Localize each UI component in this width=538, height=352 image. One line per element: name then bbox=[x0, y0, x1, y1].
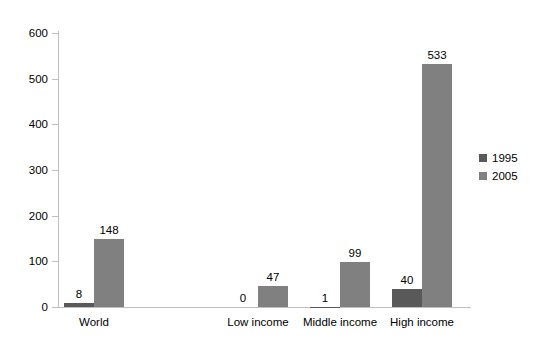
y-axis-tick-label: 200 bbox=[0, 208, 48, 224]
bar-value-label: 148 bbox=[99, 223, 118, 237]
x-axis-line bbox=[58, 307, 471, 308]
bar-2005[interactable]: 99 bbox=[340, 262, 370, 307]
y-axis-tick-label: 100 bbox=[0, 253, 48, 269]
bar-group: 199 bbox=[310, 33, 370, 307]
bar-1995[interactable]: 8 bbox=[64, 303, 94, 307]
plot-area: 814804719940533 bbox=[58, 33, 470, 307]
y-axis-tick-label: 300 bbox=[0, 162, 48, 178]
category-label: World bbox=[44, 314, 144, 330]
bar-2005[interactable]: 47 bbox=[258, 286, 288, 307]
bar-value-label: 1 bbox=[322, 291, 328, 305]
y-axis-tick-label: 500 bbox=[0, 71, 48, 87]
y-axis-tick-label: 0 bbox=[0, 299, 48, 315]
bar-group bbox=[146, 33, 206, 307]
legend-label-2005: 2005 bbox=[492, 169, 518, 183]
bar-1995[interactable]: 40 bbox=[392, 289, 422, 307]
bar-group: 40533 bbox=[392, 33, 452, 307]
bar-value-label: 8 bbox=[76, 287, 82, 301]
legend-label-1995: 1995 bbox=[492, 151, 518, 165]
legend: 1995 2005 bbox=[479, 150, 518, 186]
bar-value-label: 47 bbox=[267, 270, 280, 284]
y-axis-tick-label: 400 bbox=[0, 116, 48, 132]
bar-chart: 0100200300400500600 814804719940533 Worl… bbox=[0, 0, 538, 352]
legend-item-1995[interactable]: 1995 bbox=[479, 150, 518, 166]
bar-2005[interactable]: 533 bbox=[422, 64, 452, 307]
category-label: High income bbox=[372, 314, 472, 330]
bar-group: 047 bbox=[228, 33, 288, 307]
legend-swatch-1995 bbox=[479, 154, 487, 162]
bar-value-label: 533 bbox=[427, 48, 446, 62]
bar-value-label: 40 bbox=[401, 273, 414, 287]
y-axis-tick-label: 600 bbox=[0, 25, 48, 41]
bar-value-label: 99 bbox=[349, 246, 362, 260]
legend-item-2005[interactable]: 2005 bbox=[479, 168, 518, 184]
legend-swatch-2005 bbox=[479, 172, 487, 180]
y-axis-tick bbox=[52, 307, 58, 308]
bar-2005[interactable]: 148 bbox=[94, 239, 124, 307]
bar-group: 8148 bbox=[64, 33, 124, 307]
bar-value-label: 0 bbox=[240, 291, 246, 305]
